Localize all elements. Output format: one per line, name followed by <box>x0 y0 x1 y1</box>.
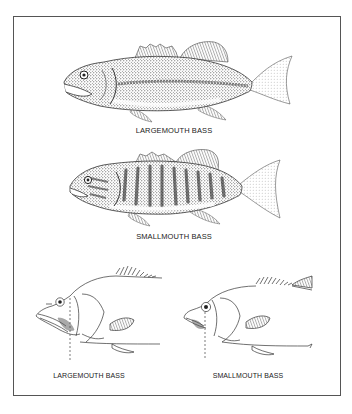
largemouth-head-outline <box>36 266 162 360</box>
bass-comparison-illustration <box>0 0 352 414</box>
largemouth-head-label: LARGEMOUTH BASS <box>53 372 125 379</box>
smallmouth-head-outline <box>184 276 312 360</box>
smallmouth-full-label: SMALLMOUTH BASS <box>136 232 212 241</box>
smallmouth-head-label: SMALLMOUTH BASS <box>213 372 284 379</box>
largemouth-bass-drawing <box>64 42 292 122</box>
largemouth-full-label: LARGEMOUTH BASS <box>136 126 213 135</box>
smallmouth-bass-drawing <box>70 150 280 227</box>
